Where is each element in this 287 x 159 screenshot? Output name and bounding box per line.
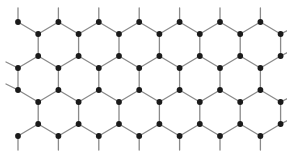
atom-node xyxy=(35,121,41,127)
atom-node xyxy=(136,133,142,139)
atom-node xyxy=(258,65,264,71)
atom-node xyxy=(76,121,82,127)
lattice-canvas xyxy=(0,0,287,159)
atom-node xyxy=(35,31,41,37)
atom-node xyxy=(15,87,21,93)
atom-node xyxy=(217,133,223,139)
atom-node xyxy=(237,53,243,59)
atom-node xyxy=(177,65,183,71)
atom-node xyxy=(136,65,142,71)
atom-node xyxy=(136,87,142,93)
atom-node xyxy=(157,99,163,105)
atom-node xyxy=(56,133,62,139)
atom-node xyxy=(96,87,102,93)
atom-node xyxy=(96,19,102,25)
atom-node xyxy=(278,53,284,59)
atom-node xyxy=(157,31,163,37)
atom-node xyxy=(278,99,284,105)
atom-node xyxy=(237,99,243,105)
atom-node xyxy=(278,121,284,127)
atom-node xyxy=(217,87,223,93)
atom-node xyxy=(96,133,102,139)
atom-node xyxy=(136,19,142,25)
atom-node xyxy=(157,121,163,127)
atom-node xyxy=(157,53,163,59)
atom-node xyxy=(197,53,203,59)
atom-node xyxy=(177,19,183,25)
atom-node xyxy=(35,99,41,105)
atom-node xyxy=(217,65,223,71)
atom-node xyxy=(197,31,203,37)
atom-node xyxy=(258,19,264,25)
atom-node xyxy=(258,87,264,93)
atom-node xyxy=(278,31,284,37)
atom-node xyxy=(177,133,183,139)
atom-node xyxy=(258,133,264,139)
atom-node xyxy=(116,53,122,59)
atom-node xyxy=(56,19,62,25)
atom-node xyxy=(76,31,82,37)
atom-node xyxy=(177,87,183,93)
honeycomb-lattice-figure xyxy=(0,0,287,159)
atom-node xyxy=(76,53,82,59)
atom-node xyxy=(96,65,102,71)
atom-node xyxy=(15,65,21,71)
atom-node xyxy=(76,99,82,105)
atom-node xyxy=(197,99,203,105)
atom-node xyxy=(217,19,223,25)
atom-node xyxy=(116,99,122,105)
atom-node xyxy=(56,87,62,93)
atom-node xyxy=(116,121,122,127)
atom-node xyxy=(15,133,21,139)
atom-node xyxy=(15,19,21,25)
atom-node xyxy=(56,65,62,71)
atom-node xyxy=(35,53,41,59)
atom-node xyxy=(116,31,122,37)
atom-node xyxy=(237,121,243,127)
atom-node xyxy=(237,31,243,37)
atom-node xyxy=(197,121,203,127)
